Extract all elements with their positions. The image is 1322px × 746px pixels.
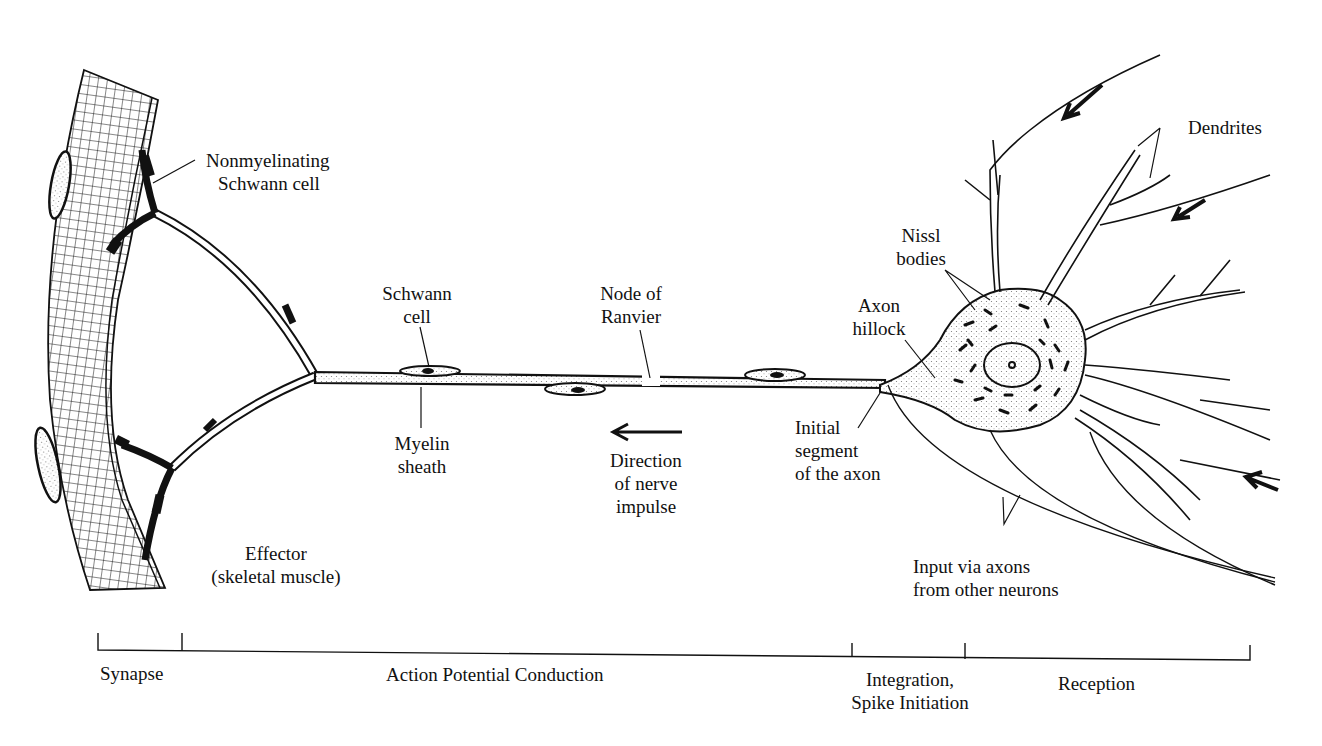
label-node-of-ranvier: Node of Ranvier <box>586 282 676 328</box>
myelinated-axon <box>315 366 885 395</box>
label-direction-of-impulse: Direction of nerve impulse <box>598 449 694 518</box>
scale-label-integration: Integration, Spike Initiation <box>835 668 985 714</box>
scale-bar <box>98 633 1250 660</box>
skeletal-muscle-fiber <box>30 70 165 590</box>
label-nissl-bodies: Nissl bodies <box>888 224 954 270</box>
scale-label-reception: Reception <box>1058 672 1135 695</box>
scale-label-synapse: Synapse <box>100 662 163 685</box>
axon-terminal-branches <box>110 150 315 560</box>
label-input-via-axons: Input via axons from other neurons <box>913 555 1059 601</box>
label-schwann-cell: Schwann cell <box>377 282 457 328</box>
impulse-arrows <box>613 85 1278 490</box>
label-effector: Effector (skeletal muscle) <box>196 542 356 588</box>
label-dendrites: Dendrites <box>1188 116 1262 139</box>
scale-label-action-potential: Action Potential Conduction <box>386 663 603 686</box>
neuron-illustration <box>0 0 1322 746</box>
label-nonmyelinating-schwann-cell: Nonmyelinating Schwann cell <box>206 149 329 195</box>
label-axon-hillock: Axon hillock <box>846 294 912 340</box>
label-myelin-sheath: Myelin sheath <box>382 432 462 478</box>
label-initial-segment: Initial segment of the axon <box>795 416 880 485</box>
